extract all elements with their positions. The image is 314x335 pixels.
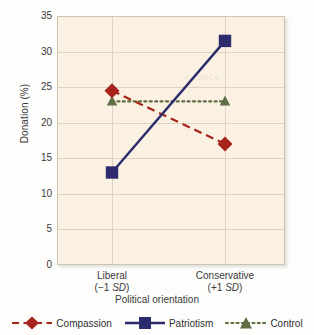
compassion-line	[112, 91, 225, 144]
patriotism-marker-liberal	[106, 166, 118, 178]
legend-swatch-compassion	[11, 316, 53, 330]
y-axis-tick-labels: 0 5 10 15 20 25 30 35	[30, 0, 52, 335]
x-tick-conservative: Conservative (+1 SD)	[170, 270, 280, 294]
series-layer	[57, 16, 285, 265]
y-tick-15: 15	[30, 153, 52, 163]
y-tick-35: 35	[30, 11, 52, 21]
y-axis-label: Donation (%)	[19, 44, 30, 184]
legend-label-patriotism: Patriotism	[169, 318, 213, 329]
x-axis-label: Political orientation	[0, 294, 314, 305]
x-tick-conservative-line2: (+1 SD)	[170, 282, 280, 294]
legend-item-control[interactable]: Control	[225, 316, 302, 330]
legend-item-compassion[interactable]: Compassion	[11, 316, 112, 330]
x-tick-liberal-line1: Liberal	[57, 270, 167, 282]
chart-legend: Compassion Patriotism Control	[0, 313, 314, 333]
patriotism-line	[112, 41, 225, 173]
y-tick-25: 25	[30, 82, 52, 92]
y-tick-30: 30	[30, 47, 52, 57]
series-patriotism	[106, 35, 231, 179]
x-tick-conservative-paren-close: )	[239, 282, 242, 293]
plot-area: nuance	[57, 16, 285, 265]
x-tick-conservative-sd: SD	[225, 282, 239, 293]
y-tick-10: 10	[30, 189, 52, 199]
x-tick-liberal-line2: (−1 SD)	[57, 282, 167, 294]
plot-grid: nuance	[57, 16, 285, 265]
x-tick-conservative-line1: Conservative	[170, 270, 280, 282]
x-tick-conservative-paren-open: (+1	[208, 282, 226, 293]
compassion-marker-conservative	[218, 137, 233, 152]
y-tick-0: 0	[30, 260, 52, 270]
x-tick-liberal-paren-open: (−1	[95, 282, 113, 293]
chart-figure: Donation (%) 0 5 10 15 20 25 30 35 nuanc…	[0, 0, 314, 335]
y-tick-5: 5	[30, 224, 52, 234]
compassion-marker-liberal	[105, 83, 120, 98]
legend-label-compassion: Compassion	[56, 318, 112, 329]
legend-swatch-patriotism	[124, 316, 166, 330]
patriotism-marker-conservative	[219, 35, 231, 47]
x-tick-liberal-paren-close: )	[126, 282, 129, 293]
x-tick-liberal: Liberal (−1 SD)	[57, 270, 167, 294]
series-compassion	[105, 83, 233, 151]
legend-item-patriotism[interactable]: Patriotism	[124, 316, 213, 330]
x-tick-liberal-sd: SD	[112, 282, 126, 293]
legend-label-control: Control	[270, 318, 302, 329]
y-tick-20: 20	[30, 118, 52, 128]
legend-swatch-control	[225, 316, 267, 330]
